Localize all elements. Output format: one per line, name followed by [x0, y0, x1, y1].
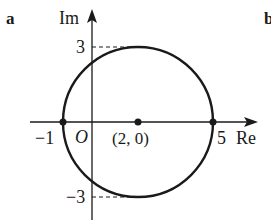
panel-label-b: b: [264, 9, 271, 28]
panel-label-a: a: [6, 9, 15, 28]
complex-plane-diagram: a b Im Re 3 −3 −1 5 O (2, 0): [0, 0, 271, 220]
x-axis-label: Re: [236, 128, 256, 148]
origin-label: O: [75, 127, 88, 147]
tick-re-5: 5: [217, 128, 226, 148]
tick-im-3: 3: [76, 37, 85, 57]
tick-re-neg1: −1: [35, 128, 54, 148]
center-label: (2, 0): [112, 129, 149, 148]
point-neg1: [60, 119, 67, 126]
y-axis-label: Im: [59, 8, 79, 28]
tick-im-neg3: −3: [66, 187, 85, 207]
point-5: [210, 119, 217, 126]
point-center: [135, 119, 142, 126]
